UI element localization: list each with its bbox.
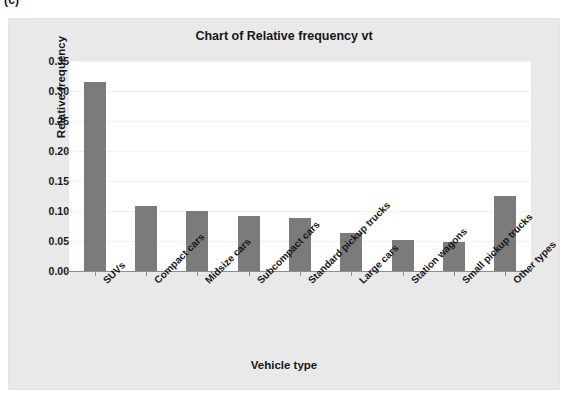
y-axis-title: Relative frequency: [55, 2, 67, 172]
x-axis-tick-label: Other types: [511, 278, 519, 286]
x-axis-tick-label: Standard pickup trucks: [306, 278, 314, 286]
x-axis-tick-mark: [505, 272, 506, 276]
x-axis-tick-label: Small pickup trucks: [460, 278, 468, 286]
y-axis-tick-label: 0.15: [15, 175, 69, 187]
x-axis-title: Vehicle type: [9, 359, 559, 371]
x-axis-tick-mark: [249, 272, 250, 276]
x-axis-tick-label: Subcompact cars: [255, 278, 263, 286]
x-axis-tick-label: Station wagons: [409, 278, 417, 286]
bar: [84, 82, 106, 271]
x-axis-tick-mark: [454, 272, 455, 276]
gridline: [69, 181, 531, 182]
x-axis-tick-label: Large cars: [357, 278, 365, 286]
x-axis-tick-mark: [403, 272, 404, 276]
y-axis-tick-label: 0.05: [15, 235, 69, 247]
gridline: [69, 121, 531, 122]
y-axis-tick-label: 0.10: [15, 205, 69, 217]
y-axis-tick-mark: [65, 271, 69, 272]
x-axis-tick-label: Midsize cars: [203, 278, 211, 286]
x-axis-tick-label: SUVs: [101, 278, 109, 286]
bar: [135, 206, 157, 271]
x-axis-tick-mark: [300, 272, 301, 276]
y-axis-tick-label: 0.00: [15, 265, 69, 277]
gridline: [69, 91, 531, 92]
figure-label: (c): [4, 0, 19, 7]
x-axis-tick-mark: [146, 272, 147, 276]
x-axis-tick-label: Compact cars: [152, 278, 160, 286]
x-axis-tick-mark: [197, 272, 198, 276]
gridline: [69, 61, 531, 62]
x-axis-tick-mark: [95, 272, 96, 276]
chart-title: Chart of Relative frequency vt: [9, 29, 559, 43]
gridline: [69, 151, 531, 152]
x-axis-tick-mark: [351, 272, 352, 276]
chart-panel: Chart of Relative frequency vt 0.000.050…: [8, 18, 560, 390]
